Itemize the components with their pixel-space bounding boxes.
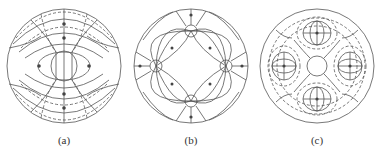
panel-label-b: (b) bbox=[128, 134, 254, 146]
field-diagram-b bbox=[128, 0, 254, 130]
panel-label-a: (a) bbox=[1, 134, 127, 146]
field-diagram-c bbox=[254, 0, 380, 130]
panel-label-c: (c) bbox=[254, 134, 380, 146]
panel-b: (b) bbox=[128, 0, 254, 157]
panel-a: (a) bbox=[1, 0, 127, 157]
panel-c: (c) bbox=[254, 0, 380, 157]
field-diagram-a bbox=[1, 0, 127, 130]
